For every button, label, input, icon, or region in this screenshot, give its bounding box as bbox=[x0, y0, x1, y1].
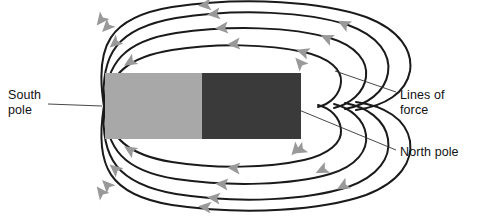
label-north-pole: North pole bbox=[400, 145, 459, 160]
arrow-left-icon bbox=[197, 200, 211, 213]
magnet-south-half bbox=[105, 73, 202, 139]
label-south-pole-line1: South bbox=[8, 88, 41, 102]
magnet-north-half bbox=[202, 73, 301, 139]
label-lines-of-force-line2: force bbox=[400, 103, 428, 117]
bar-magnet bbox=[105, 73, 301, 139]
label-lines-of-force: Lines offorce bbox=[400, 88, 445, 118]
arrow-left-icon bbox=[227, 38, 241, 51]
label-south-pole: Southpole bbox=[8, 88, 41, 118]
magnetic-field-diagram: Southpole Lines offorce North pole bbox=[0, 0, 482, 218]
arrow-left-icon bbox=[197, 0, 211, 12]
leader-line-north-pole bbox=[299, 110, 396, 150]
arrow-left-icon bbox=[227, 162, 241, 175]
label-north-pole-line1: North pole bbox=[400, 145, 459, 159]
leader-line-south-pole bbox=[48, 104, 102, 106]
arrow-left-icon bbox=[335, 15, 352, 32]
label-lines-of-force-line1: Lines of bbox=[400, 88, 445, 102]
label-south-pole-line2: pole bbox=[8, 103, 32, 117]
arrow-left-icon bbox=[294, 44, 310, 59]
